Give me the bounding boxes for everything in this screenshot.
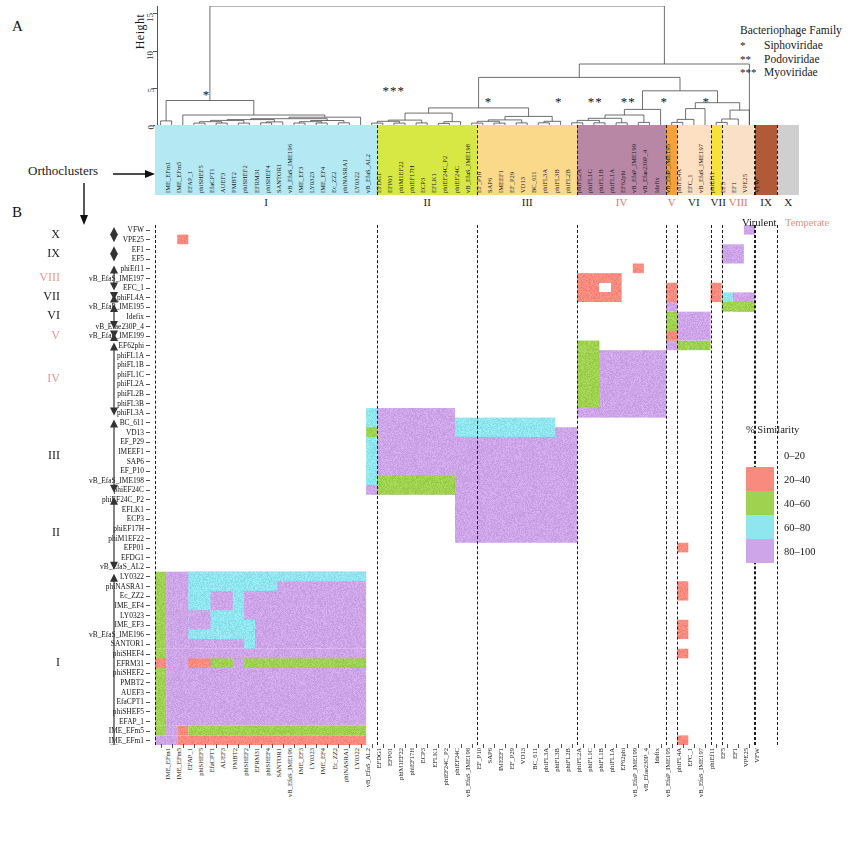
orthocluster-column-label: phiFL1C [586,169,593,193]
row-tick-mark [146,548,150,549]
heatmap-column-label: VPE25 [742,748,749,767]
column-tick-mark [672,744,673,748]
column-tick-mark [716,744,717,748]
orthocluster-column-label: VD13 [519,177,526,193]
column-tick-mark [538,744,539,748]
family-legend-item-podoviridae: ** Podoviridae [740,53,858,65]
row-tick-mark [146,654,150,655]
orthocluster-column-label: EFDG1 [375,173,382,193]
cluster-axis-roman-ii: II [52,525,60,540]
orthocluster-column-label: PMBT2 [230,172,237,193]
heatmap-column-label: phiEF24C [453,748,460,775]
orthocluster-column-label: vB_EfaS_AL2 [364,154,371,193]
heatmap-column-label: phiSHEF4 [264,748,271,776]
cluster-range-arrow-up-icon [110,304,118,312]
row-tick-mark [146,567,150,568]
similarity-range-label: 80–100 [784,546,816,557]
row-tick-mark [146,576,150,577]
row-tick-mark [146,673,150,674]
family-star-mark: * [555,95,563,108]
orthocluster-divider [666,125,667,195]
column-tick-mark [383,744,384,748]
cluster-axis-roman-v: V [51,328,60,343]
cluster-axis-roman-iv: IV [47,371,60,386]
row-tick-mark [146,471,150,472]
orthocluster-roman-labels: IIIIIIIVVVIVIIVIIIIXX [155,196,755,212]
orthocluster-column-label: phiNASRA1 [341,159,348,193]
heatmap-column-label: BC_611 [531,748,538,770]
orthocluster-roman-iv: IV [577,196,666,208]
heatmap-cluster-divider [711,225,712,745]
heatmap-column-label: phiFL3B [553,748,560,772]
similarity-legend-rows: 0–2020–4040–6060–8080–100 [746,443,858,563]
heatmap-column-label: Ec_ZZ2 [331,748,338,770]
heatmap-column-label: vB_EfaP_IME199 [631,748,638,797]
column-tick-mark [705,744,706,748]
column-tick-mark [349,744,350,748]
column-tick-mark [616,744,617,748]
heatmap-column-label: EfaCPT1 [208,748,215,773]
family-star-mark: * [485,95,493,108]
orthocluster-column-label: Idefix [653,177,660,193]
row-tick-mark [146,432,150,433]
column-tick-mark [438,744,439,748]
orthocluster-column-label: LY0322 [353,172,360,193]
row-tick-mark [146,519,150,520]
orthocluster-column-label: SAP6 [486,178,493,193]
heatmap-column-label: phiNASRA1 [342,748,349,782]
podoviridae-label: Podoviridae [764,53,820,65]
orthocluster-column-label: SANTOR1 [275,164,282,193]
orthocluster-column-label: EFP01 [386,175,393,193]
cluster-range-arrow-up-icon [110,266,118,274]
heatmap-column-label: EFRM31 [253,748,260,773]
heatmap-column-label: LY0323 [308,748,315,769]
bacteriophage-family-legend: Bacteriophage Family * Siphoviridae ** P… [740,24,858,78]
family-star-mark: ** [588,95,603,108]
column-tick-mark [272,744,273,748]
orthocluster-column-label: phiFL4A [675,169,682,193]
orthocluster-column-label: LY0323 [308,172,315,193]
row-tick-mark [146,605,150,606]
similarity-swatch [746,491,774,515]
column-tick-mark [583,744,584,748]
similarity-legend-item: 80–100 [746,539,858,563]
row-tick-mark [146,644,150,645]
orthocluster-column-label: vB_EfaS_IME197 [697,144,704,193]
orthocluster-column-label: EF_P29 [508,172,515,193]
orthocluster-column-label: phiSHEF2 [241,165,248,193]
column-tick-mark [316,744,317,748]
row-tick-mark [146,499,150,500]
orthocluster-column-label: EF_P10 [475,172,482,193]
orthocluster-roman-viii: VIII [722,196,755,208]
orthocluster-column-label: EFC_1 [686,174,693,193]
row-tick-mark [146,326,150,327]
orthocluster-column-label: BC_611 [530,171,537,193]
row-tick-mark [146,451,150,452]
heatmap-column-label: VFW [753,748,760,763]
orthocluster-column-label: EF5 [719,182,726,193]
cluster-range-axis: XIXVIIIVIIVIVIVIIIIII [18,225,138,745]
cluster-range-arrow-up-icon [110,246,118,254]
orthocluster-column-label: EFLK1 [430,173,437,193]
row-tick-mark [146,403,150,404]
heatmap-column-label: VD13 [519,748,526,764]
heatmap-canvas [155,225,755,745]
heatmap-column-label: vB_EfaS_AL2 [364,748,371,787]
orthocluster-column-label: phiFL2A [575,169,582,193]
column-tick-mark [361,744,362,748]
heatmap-column-label: EFAP_1 [186,748,193,770]
column-tick-mark [161,744,162,748]
orthocluster-column-label: phiFL1A [608,169,615,193]
family-star-mark: ** [621,95,636,108]
row-tick-mark [146,711,150,712]
similarity-range-label: 20–40 [784,474,810,485]
heatmap-column-label: phiFL4A [675,748,682,772]
heatmap-cluster-divider [577,225,578,745]
similarity-legend-item: 60–80 [746,515,858,539]
similarity-legend-item: 0–20 [746,443,858,467]
heatmap-column-label: LY0322 [353,748,360,769]
column-tick-mark [227,744,228,748]
orthocluster-divider [711,125,712,195]
podoviridae-star-icon: ** [740,53,764,65]
family-legend-title: Bacteriophage Family [740,24,858,36]
